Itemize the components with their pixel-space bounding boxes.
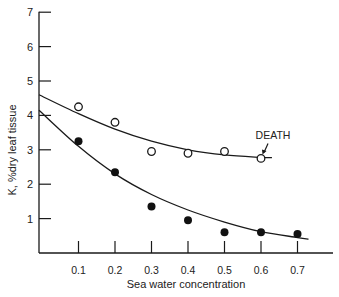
annotations: DEATH [256, 129, 291, 154]
open-circle-point [75, 103, 83, 111]
open-circle-point [257, 155, 265, 163]
fit-curves [39, 95, 308, 239]
x-tick-label: 0.4 [181, 264, 196, 276]
x-tick-label: 0.6 [254, 264, 269, 276]
x-tick-label: 0.1 [71, 264, 86, 276]
y-tick-label: 7 [27, 6, 33, 18]
open-circle-point [111, 118, 119, 126]
y-axis-label: K, %dry leaf tissue [6, 104, 18, 195]
y-tick-label: 2 [27, 178, 33, 190]
open-circle-point [221, 148, 229, 156]
x-tick-label: 0.5 [217, 264, 232, 276]
chart: 12345670.10.20.30.40.50.60.7 DEATH Sea w… [0, 0, 339, 297]
filled-circle-point [111, 168, 119, 176]
filled-circle-point [148, 203, 156, 211]
filled-circle-point [75, 137, 83, 145]
x-tick-label: 0.3 [144, 264, 159, 276]
y-tick-label: 3 [27, 144, 33, 156]
filled-circle-point [184, 216, 192, 224]
data-points [75, 103, 302, 238]
x-axis-label: Sea water concentration [127, 278, 246, 290]
y-tick-label: 5 [27, 75, 33, 87]
filled-circle-point [294, 230, 302, 238]
open-circle-point [184, 149, 192, 157]
open-circle-point [148, 148, 156, 156]
y-tick-label: 1 [27, 213, 33, 225]
x-tick-label: 0.7 [290, 264, 305, 276]
open-circles-fit-curve [39, 95, 272, 158]
x-tick-label: 0.2 [108, 264, 123, 276]
filled-circle-point [221, 228, 229, 236]
annotation-arrowhead [262, 149, 267, 154]
y-tick-label: 4 [27, 109, 33, 121]
death-annotation-label: DEATH [256, 129, 291, 141]
y-tick-label: 6 [27, 41, 33, 53]
filled-circle-point [257, 228, 265, 236]
